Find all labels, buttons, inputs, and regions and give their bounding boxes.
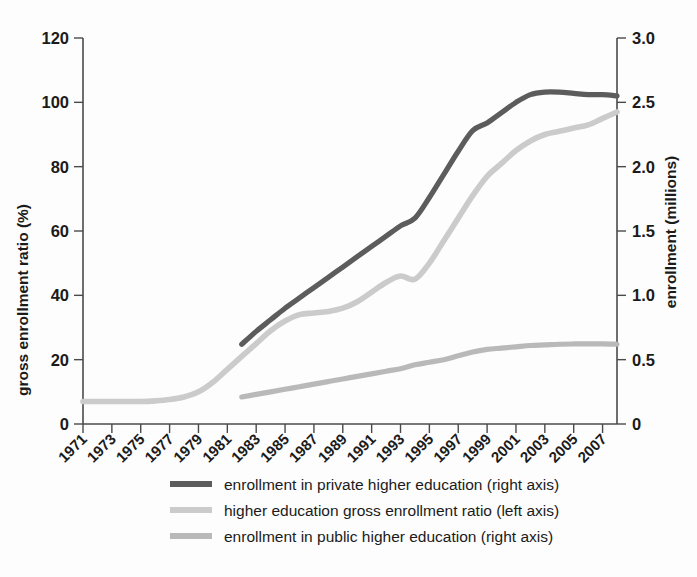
- right-tick-label: 2.5: [632, 93, 655, 111]
- right-tick-label: 1.0: [632, 286, 655, 304]
- left-tick-label: 40: [51, 286, 69, 304]
- legend-label-2: higher education gross enrollment ratio …: [224, 502, 559, 519]
- chart-figure: 020406080100120 00.51.01.52.02.53.0 1971…: [0, 0, 697, 577]
- left-tick-label: 120: [41, 29, 69, 47]
- left-axis-title: gross enrollment ratio (%): [14, 204, 31, 396]
- right-tick-label: 0.5: [632, 351, 655, 369]
- chart-legend: enrollment in private higher education (…: [170, 476, 559, 545]
- line-chart: 020406080100120 00.51.01.52.02.53.0 1971…: [0, 0, 697, 577]
- legend-label-1: enrollment in private higher education (…: [224, 476, 559, 493]
- left-tick-label: 0: [60, 415, 69, 433]
- right-tick-label: 3.0: [632, 29, 655, 47]
- right-tick-label: 2.0: [632, 158, 655, 176]
- left-tick-label: 100: [41, 93, 69, 111]
- left-tick-label: 20: [51, 351, 69, 369]
- right-tick-label: 1.5: [632, 222, 655, 240]
- right-tick-label: 0: [632, 415, 641, 433]
- right-axis-title: enrollment (millions): [662, 156, 679, 308]
- left-tick-label: 80: [51, 158, 69, 176]
- legend-label-3: enrollment in public higher education (r…: [224, 528, 553, 545]
- left-tick-label: 60: [51, 222, 69, 240]
